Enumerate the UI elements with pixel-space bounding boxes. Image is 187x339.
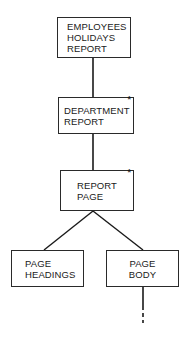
node-report-page: REPORT PAGE * bbox=[60, 170, 134, 211]
structure-diagram: EMPLOYEES HOLIDAYS REPORT DEPARTMENT REP… bbox=[0, 0, 187, 339]
node-label-line: HOLIDAYS bbox=[67, 32, 115, 43]
node-label-line: PAGE bbox=[129, 258, 155, 269]
node-label-line: REPORT bbox=[67, 43, 107, 54]
node-employees-holidays-report: EMPLOYEES HOLIDAYS REPORT bbox=[57, 17, 131, 58]
iteration-marker: * bbox=[127, 168, 131, 177]
node-label-line: DEPARTMENT bbox=[64, 105, 130, 116]
connector-page-to-headings bbox=[44, 211, 93, 250]
node-department-report: DEPARTMENT REPORT * bbox=[58, 97, 134, 134]
node-label-line: PAGE bbox=[25, 258, 51, 269]
node-page-body: PAGE BODY bbox=[106, 250, 179, 287]
connector-page-to-body bbox=[93, 211, 143, 250]
node-label-line: HEADINGS bbox=[25, 269, 75, 280]
node-label-line: EMPLOYEES bbox=[67, 21, 127, 32]
node-label-line: REPORT bbox=[77, 180, 117, 191]
iteration-marker: * bbox=[127, 95, 131, 104]
node-label-line: REPORT bbox=[64, 116, 104, 127]
node-page-headings: PAGE HEADINGS bbox=[11, 250, 84, 287]
node-label-line: BODY bbox=[129, 269, 156, 280]
node-label-line: PAGE bbox=[77, 191, 103, 202]
